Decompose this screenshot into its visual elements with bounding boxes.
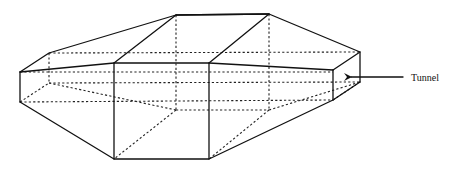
hidden-edges <box>20 14 360 159</box>
edge-front-bottom <box>20 82 360 159</box>
hidden-edge-Ab-Bb <box>20 83 49 102</box>
tunnel-annotation: Tunnel <box>351 72 439 83</box>
visible-edges <box>20 14 360 159</box>
hidden-edge-Bb-Cb <box>49 83 176 110</box>
edge-C-E <box>114 15 176 63</box>
hidden-edge-Cb-Eb <box>114 110 176 159</box>
hidden-edge-back-top <box>49 52 360 53</box>
tunnel-label: Tunnel <box>411 72 439 83</box>
edge-top-ridge <box>176 14 269 15</box>
hidden-edge-Db-Hb <box>269 82 360 110</box>
hidden-edge-back-bottom <box>49 82 360 83</box>
edge-D-F <box>209 14 269 63</box>
tunnel-polyhedron-diagram: Tunnel <box>0 0 460 172</box>
